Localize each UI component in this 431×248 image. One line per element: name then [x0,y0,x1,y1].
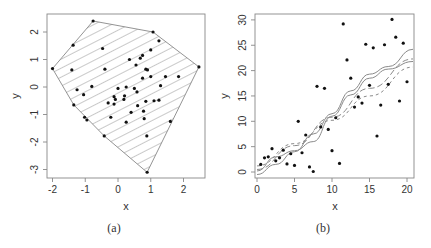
data-point [141,54,144,57]
data-point [141,77,144,80]
data-point [308,165,311,168]
data-point [107,101,110,104]
data-point [116,87,119,90]
data-point [164,75,167,78]
data-point [375,134,378,137]
panel-a: -2-1012-3-2-1012 x y (a) [9,14,205,235]
data-point [139,57,142,60]
data-point [323,87,326,90]
data-point [270,147,273,150]
data-point [368,84,371,87]
data-point [169,120,172,123]
data-point [101,47,104,50]
data-point [263,156,266,159]
data-point [83,116,86,119]
data-point [157,39,160,42]
x-tick-label: 20 [401,184,413,195]
y-axis-label-b: y [218,93,230,99]
data-point [122,98,125,101]
data-point [285,162,288,165]
data-point [142,110,145,113]
data-point [297,120,300,123]
data-point [125,85,128,88]
data-point [330,149,333,152]
data-point [103,134,106,137]
data-point [327,128,330,131]
y-axis-label-a: y [9,93,21,99]
x-tick-label: 5 [292,184,298,195]
x-tick-label: 15 [364,184,376,195]
y-tick-label: 0 [237,169,248,175]
data-point [405,80,408,83]
y-tick-label: 30 [237,14,248,26]
data-point [151,30,154,33]
fitted-curves [257,49,413,174]
x-tick-label: 0 [115,184,121,195]
data-point [143,117,146,120]
data-point [274,159,277,162]
data-point [315,85,318,88]
data-point [390,18,393,21]
data-point [312,170,315,173]
data-point [267,155,270,158]
data-point [75,88,78,91]
data-point [70,68,73,71]
y-tick-label: -1 [29,110,40,119]
data-point [259,163,262,166]
data-point [304,133,307,136]
dashed-curve-1 [257,59,413,170]
data-point [152,99,155,102]
x-tick-label: 0 [254,184,260,195]
x-tick-label: -2 [48,184,57,195]
data-point [90,85,93,88]
data-point [146,68,149,71]
data-point [177,75,180,78]
data-point [144,100,147,103]
data-point [149,75,152,78]
data-point [103,68,106,71]
data-point [92,19,95,22]
data-point [300,151,303,154]
data-point [278,156,281,159]
data-point [360,101,363,104]
data-point [197,65,200,68]
data-point [72,103,75,106]
data-point [398,99,401,102]
data-point [51,67,54,70]
data-point [134,63,137,66]
y-tick-label: 5 [237,143,248,149]
solid-curve-2 [257,61,413,171]
y-tick-label: 20 [237,65,248,77]
y-tick-label: 0 [29,84,40,90]
data-point [112,95,115,98]
data-point [133,87,136,90]
data-point [334,116,337,119]
data-point [146,171,149,174]
data-point [149,48,152,51]
data-point [72,44,75,47]
data-point [145,134,148,137]
y-tick-label: -2 [29,137,40,146]
y-tick-label: 15 [237,90,248,102]
data-point [364,43,367,46]
data-point [136,104,139,107]
data-point [109,116,112,119]
data-point [353,106,356,109]
data-point [289,152,292,155]
panel-b: 05101520051015202530 x y (b) [218,14,414,235]
data-point [387,83,390,86]
y-tick-label: 25 [237,39,248,51]
data-point [402,42,405,45]
caption-a: (a) [107,221,120,235]
x-tick-label: 1 [148,184,154,195]
data-point [383,43,386,46]
data-point [114,98,117,101]
data-point [379,103,382,106]
data-point [282,149,285,152]
data-point [357,95,360,98]
y-tick-label: -3 [29,165,40,174]
data-point [112,102,115,105]
data-point [130,111,133,114]
data-point [293,164,296,167]
scatter-points-b [259,18,408,173]
